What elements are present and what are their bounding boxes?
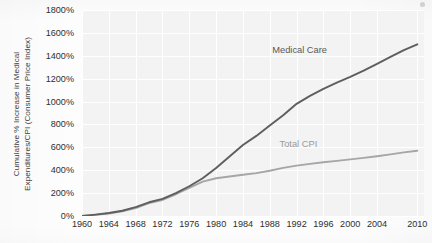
y-tick-label: 1200% (18, 74, 74, 84)
x-tick-label: 1984 (233, 219, 253, 229)
x-tick-label: 1960 (72, 219, 92, 229)
y-tick-label: 400% (18, 165, 74, 175)
x-tick-label: 1968 (126, 219, 146, 229)
series-line-total-cpi (82, 151, 417, 216)
y-tick-label: 0% (18, 211, 74, 221)
x-tick-label: 1980 (206, 219, 226, 229)
series-label-total-cpi: Total CPI (280, 139, 318, 149)
y-tick-label: 600% (18, 142, 74, 152)
series-line-medical-care (82, 44, 417, 216)
chart-lines (82, 10, 424, 216)
x-axis-tick-labels: 1960196419681972197619801984198819921996… (82, 219, 424, 233)
y-tick-label: 800% (18, 119, 74, 129)
x-tick-label: 1972 (152, 219, 172, 229)
x-tick-label: 1964 (99, 219, 119, 229)
x-tick-label: 2004 (367, 219, 387, 229)
plot-area: Medical Care Total CPI (82, 10, 424, 216)
y-tick-label: 1800% (18, 5, 74, 15)
series-label-medical-care: Medical Care (272, 45, 327, 55)
y-tick-label: 1000% (18, 97, 74, 107)
x-tick-label: 1976 (179, 219, 199, 229)
y-tick-label: 1600% (18, 28, 74, 38)
x-tick-label: 2010 (407, 219, 427, 229)
y-tick-label: 1400% (18, 51, 74, 61)
y-tick-label: 200% (18, 188, 74, 198)
x-tick-label: 2000 (340, 219, 360, 229)
x-tick-label: 1988 (260, 219, 280, 229)
x-tick-label: 1992 (286, 219, 306, 229)
scan-speck (420, 2, 425, 7)
x-tick-label: 1996 (313, 219, 333, 229)
gridline-horizontal (82, 216, 424, 217)
chart-page: Cumulative % Increase in Medical Expendi… (0, 0, 432, 243)
